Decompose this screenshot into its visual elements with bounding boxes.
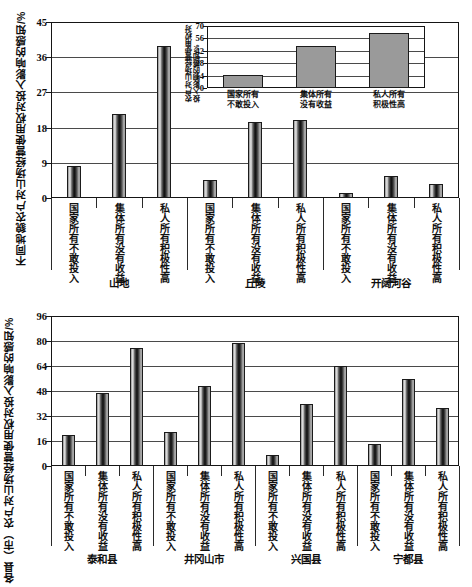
inset-bar	[296, 46, 336, 88]
x-category-label: 私人所有积极性高	[430, 203, 440, 271]
bar	[436, 408, 449, 466]
x-category-label: 集体所有没有收益	[249, 203, 259, 271]
y-tick-mark	[46, 366, 51, 367]
y-tick-label: 32	[21, 411, 47, 422]
x-axis-separator	[85, 466, 86, 476]
inset-y-tick-label: 28	[188, 58, 204, 68]
inset-x-category-label: 集体所有 没有收益	[282, 90, 350, 110]
bar	[112, 114, 126, 198]
x-category-label: 集体所有没有收益	[385, 203, 395, 271]
x-axis-separator	[51, 198, 52, 270]
y-tick-mark	[46, 316, 51, 317]
y-tick-mark	[46, 391, 51, 392]
x-axis-separator	[142, 198, 143, 208]
x-category-label: 国家所有不敢投入	[368, 471, 378, 543]
x-axis-separator	[255, 466, 256, 546]
y-tick-label: 0	[21, 193, 47, 204]
inset-x-category-label: 国家所有 不敢投入	[209, 90, 277, 110]
inset-y-tick-mark	[203, 63, 207, 64]
x-axis-separator	[357, 466, 358, 546]
x-axis-separator	[414, 198, 415, 208]
inset-y-tick-mark	[203, 76, 207, 77]
x-axis-separator	[96, 198, 97, 208]
top-bar-chart: 不同地貌农户对山场经营使用权对投入影响的感知/% 0918273645 国家所有…	[0, 0, 472, 295]
y-tick-mark	[46, 341, 51, 342]
x-category-label: 国家所有不敢投入	[68, 203, 78, 271]
bar	[232, 343, 245, 466]
x-axis-separator	[323, 198, 324, 270]
y-tick-mark	[46, 92, 51, 93]
y-tick-label: 9	[21, 157, 47, 168]
x-axis-separator	[459, 466, 460, 546]
bar	[293, 120, 307, 198]
inset-y-tick-mark	[203, 88, 207, 89]
bar	[402, 379, 415, 467]
y-tick-label: 45	[21, 17, 47, 28]
inset-y-tick-label: 70	[188, 21, 204, 31]
x-axis-separator	[289, 466, 290, 476]
x-axis-separator	[459, 198, 460, 270]
bottom-chart-y-tick-labels: 0163248648096	[21, 316, 47, 466]
y-tick-label: 27	[21, 87, 47, 98]
bar	[429, 184, 443, 198]
x-category-label: 国家所有不敢投入	[340, 203, 350, 271]
y-tick-mark	[46, 22, 51, 23]
bar	[67, 166, 81, 198]
x-category-label: 私人所有积极性高	[158, 203, 168, 271]
bottom-chart-y-axis-title: 各县（市）农户对山场经营使用权对投入影响的感知/%	[4, 313, 15, 583]
bar	[339, 193, 353, 198]
inset-bar	[223, 75, 263, 88]
x-category-label: 集体所有没有收益	[198, 471, 208, 543]
x-category-label: 集体所有没有收益	[96, 471, 106, 543]
y-tick-mark	[46, 441, 51, 442]
gridline	[52, 366, 458, 367]
inset-chart-y-tick-labels: 01428425670	[188, 26, 204, 88]
inset-y-tick-mark	[203, 51, 207, 52]
x-axis-separator	[119, 466, 120, 476]
group-label: 宁都县	[357, 551, 459, 566]
inset-y-tick-label: 0	[188, 83, 204, 93]
bar	[164, 432, 177, 466]
group-label: 井冈山市	[153, 551, 255, 566]
bottom-bar-chart: 各县（市）农户对山场经营使用权对投入影响的感知/% 0163248648096 …	[0, 295, 472, 587]
x-category-label: 国家所有不敢投入	[62, 471, 72, 543]
x-category-label: 集体所有没有收益	[402, 471, 412, 543]
x-category-label: 私人所有积极性高	[436, 471, 446, 543]
bar	[157, 46, 171, 198]
x-axis-separator	[391, 466, 392, 476]
inset-y-tick-mark	[203, 26, 207, 27]
y-tick-label: 16	[21, 436, 47, 447]
gridline	[52, 416, 458, 417]
x-category-label: 集体所有没有收益	[113, 203, 123, 271]
inset-bar	[369, 33, 409, 88]
bar	[300, 404, 313, 467]
x-axis-separator	[187, 466, 188, 476]
y-tick-label: 36	[21, 52, 47, 63]
x-axis-separator	[232, 198, 233, 208]
bar	[198, 386, 211, 466]
x-axis-separator	[221, 466, 222, 476]
bar	[384, 176, 398, 198]
x-category-label: 私人所有积极性高	[130, 471, 140, 543]
y-tick-mark	[46, 57, 51, 58]
y-tick-mark	[46, 128, 51, 129]
x-axis-separator	[51, 466, 52, 546]
group-label: 泰和县	[51, 551, 153, 566]
y-tick-label: 48	[21, 386, 47, 397]
group-label: 兴国县	[255, 551, 357, 566]
gridline	[52, 441, 458, 442]
gridline	[52, 341, 458, 342]
x-axis-separator	[323, 466, 324, 476]
x-category-label: 私人所有积极性高	[334, 471, 344, 543]
y-tick-mark	[46, 163, 51, 164]
y-tick-label: 96	[21, 311, 47, 322]
y-tick-label: 18	[21, 122, 47, 133]
inset-y-tick-label: 42	[188, 46, 204, 56]
inset-y-tick-label: 14	[188, 71, 204, 81]
y-tick-label: 64	[21, 361, 47, 372]
group-label: 山地	[51, 275, 187, 290]
x-category-label: 国家所有不敢投入	[204, 203, 214, 271]
bar	[266, 455, 279, 466]
inset-x-category-label: 私人所有 积极性高	[355, 90, 423, 110]
top-chart-y-tick-labels: 0918273645	[21, 22, 47, 198]
